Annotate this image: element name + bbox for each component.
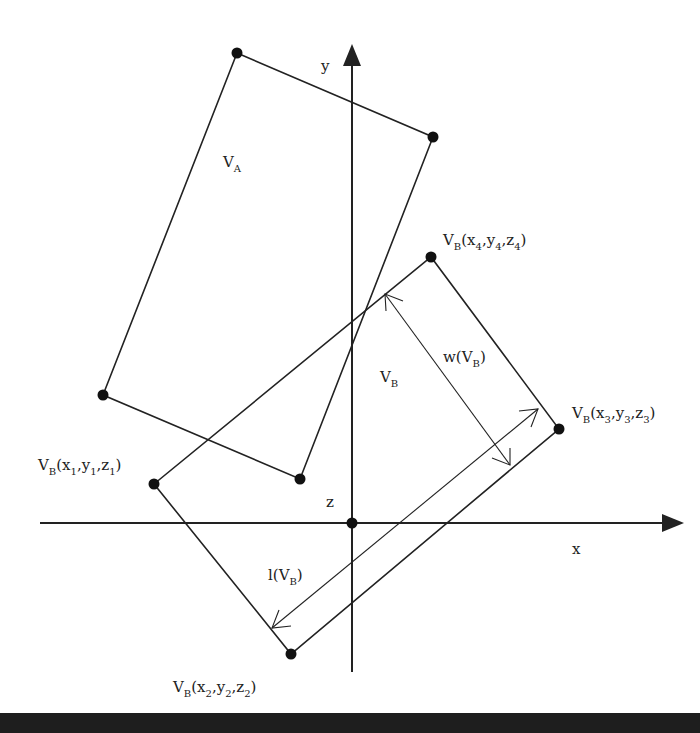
geometry-svg: y x z VA VB VB(x1,y1,z1) VB(x2,y2,z2) VB…: [0, 0, 700, 733]
rectangle-a: [103, 53, 433, 479]
vertex-b-3: [554, 424, 565, 435]
length-dimension-arrow: [272, 409, 538, 628]
width-arrowhead-bottom: [492, 448, 510, 465]
vertex-a-3: [295, 474, 306, 485]
width-dimension-arrow: [385, 294, 510, 465]
y-axis-arrowhead: [343, 44, 361, 66]
x-axis-arrowhead: [662, 514, 684, 532]
rectangle-b: [154, 257, 559, 654]
vertex-b-3-label: VB(x3,y3,z3): [571, 404, 655, 425]
width-arrowhead-top: [385, 294, 403, 311]
bottom-border-bar: [0, 713, 700, 733]
vertex-b-1: [149, 479, 160, 490]
rectangle-b-label: VB: [379, 368, 398, 389]
diagram-canvas: y x z VA VB VB(x1,y1,z1) VB(x2,y2,z2) VB…: [0, 0, 700, 733]
rectangle-a-label: VA: [222, 153, 242, 174]
vertex-b-2: [286, 649, 297, 660]
length-dimension-label: l(VB): [268, 566, 303, 587]
vertex-a-1: [232, 48, 243, 59]
origin-point: [347, 518, 358, 529]
width-dimension-label: w(VB): [443, 348, 486, 369]
vertex-a-4: [98, 390, 109, 401]
vertex-a-2: [428, 132, 439, 143]
y-axis-label: y: [320, 57, 330, 75]
vertex-b-2-label: VB(x2,y2,z2): [172, 678, 256, 699]
x-axis-label: x: [572, 540, 581, 558]
vertex-b-4-label: VB(x4,y4,z4): [442, 231, 526, 252]
z-axis-label: z: [326, 493, 334, 511]
vertex-b-1-label: VB(x1,y1,z1): [37, 456, 121, 477]
vertex-b-4: [426, 252, 437, 263]
